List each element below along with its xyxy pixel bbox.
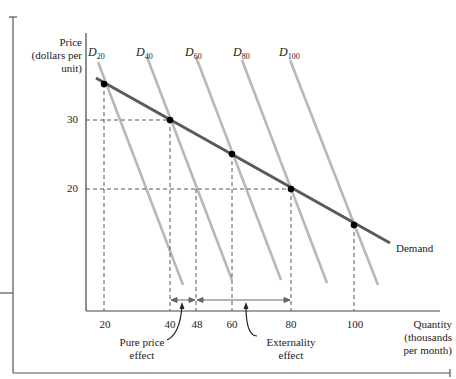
d80-label: D80 [233, 45, 250, 61]
x-tick-48: 48 [192, 318, 203, 330]
y-tick-30: 30 [48, 113, 78, 125]
y-tick-20: 20 [48, 182, 78, 194]
externality-effect-label: Externality effect [258, 336, 324, 362]
annotation-line: Pure price [112, 336, 172, 349]
effect-arrows [171, 298, 290, 303]
x-tick-40: 40 [165, 318, 176, 330]
annotation-line: effect [112, 349, 172, 362]
x-axis-label-line: (thousands [392, 331, 452, 344]
d60-label: D60 [185, 45, 202, 61]
d20-curve [98, 62, 183, 285]
y-axis-label-line: unit) [20, 62, 82, 75]
y-axis-label: Price (dollars per unit) [20, 36, 82, 75]
d100-label: D100 [279, 45, 300, 61]
x-axis-label-line: per month) [392, 344, 452, 357]
shifted-demand-curves [98, 57, 378, 285]
d40-label: D40 [136, 45, 153, 61]
y-axis-label-line: Price [20, 36, 82, 49]
d40-curve [147, 57, 232, 280]
annotation-line: Externality [258, 336, 324, 349]
x-axis-label-line: Quantity [392, 318, 452, 331]
d60-curve [196, 57, 281, 280]
x-axis-label: Quantity (thousands per month) [392, 318, 452, 357]
x-tick-60: 60 [227, 318, 238, 330]
demand-line [96, 78, 390, 243]
d80-curve [242, 60, 327, 283]
annotation-line: effect [258, 349, 324, 362]
x-tick-80: 80 [286, 318, 297, 330]
demand-label: Demand [396, 242, 433, 255]
pure-price-effect-label: Pure price effect [112, 336, 172, 362]
d100-curve [290, 60, 378, 285]
d20-label: D20 [88, 45, 105, 61]
y-axis-label-line: (dollars per [20, 49, 82, 62]
x-tick-20: 20 [100, 318, 111, 330]
x-tick-100: 100 [347, 318, 364, 330]
